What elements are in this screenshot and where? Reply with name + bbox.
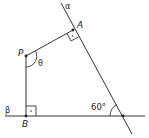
label-theta: θ: [38, 59, 43, 68]
geometry-diagram: α A P θ β B 60°: [0, 0, 149, 138]
label-beta: β: [5, 106, 10, 115]
label-alpha: α: [65, 2, 70, 11]
label-60: 60°: [91, 102, 106, 112]
line-alpha: [61, 3, 132, 134]
segment-pa: [26, 30, 73, 56]
angle-arc-60: [110, 105, 117, 116]
point-b: [25, 115, 28, 118]
label-a: A: [76, 20, 83, 30]
point-intersection: [122, 115, 125, 118]
right-angle-marker-a: [67, 34, 79, 42]
label-p: P: [18, 48, 24, 58]
label-b: B: [22, 119, 28, 129]
point-a: [72, 29, 75, 32]
right-angle-marker-b: [26, 106, 36, 116]
point-p: [25, 55, 28, 58]
